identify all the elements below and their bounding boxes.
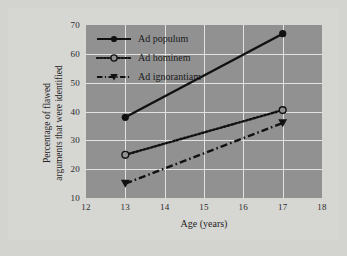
data-point-marker: [122, 114, 129, 121]
legend-swatch-ad-ignorantiam: [96, 70, 132, 84]
series-line-ad-hominem: [125, 110, 282, 155]
y-axis-title: Percentage of flawed arguments that were…: [41, 33, 65, 213]
data-point-marker: [279, 30, 286, 37]
figure-frame: Ad populum Ad hominem Ad ignorantiam: [8, 8, 339, 240]
plot-area: Ad populum Ad hominem Ad ignorantiam: [86, 25, 322, 198]
x-tick-label: 15: [199, 202, 208, 212]
x-axis-title: Age (years): [86, 218, 322, 229]
legend-swatch-ad-hominem: [96, 51, 132, 65]
legend-label-ad-ignorantiam: Ad ignorantiam: [138, 71, 201, 82]
y-tick-label: 70: [60, 20, 80, 30]
legend-label-ad-populum: Ad populum: [138, 33, 188, 44]
data-point-marker: [279, 107, 286, 114]
x-tick-label: 12: [81, 202, 90, 212]
legend-label-ad-hominem: Ad hominem: [138, 52, 191, 63]
x-tick-label: 14: [160, 202, 169, 212]
x-tick-label: 18: [317, 202, 326, 212]
legend-item[interactable]: Ad hominem: [96, 48, 226, 67]
y-axis-title-line1: Percentage of flawed: [41, 33, 53, 213]
data-point-marker: [122, 151, 129, 158]
legend-item[interactable]: Ad ignorantiam: [96, 67, 226, 86]
y-axis-title-line2: arguments that were identified: [53, 33, 65, 213]
data-point-marker: [121, 180, 130, 188]
x-tick-label: 17: [278, 202, 287, 212]
x-tick-label: 16: [239, 202, 248, 212]
legend-swatch-ad-populum: [96, 32, 132, 46]
chart-legend: Ad populum Ad hominem Ad ignorantiam: [96, 29, 226, 86]
figure-canvas: Ad populum Ad hominem Ad ignorantiam: [0, 0, 347, 256]
legend-item[interactable]: Ad populum: [96, 29, 226, 48]
x-tick-label: 13: [121, 202, 130, 212]
